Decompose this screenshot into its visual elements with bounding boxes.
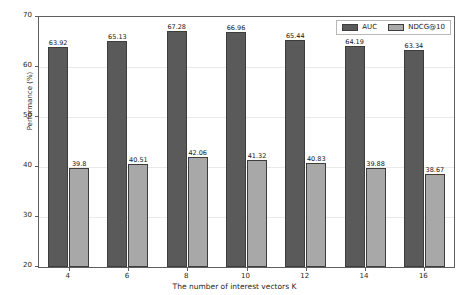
x-tick-mark — [306, 268, 307, 271]
bar-value-label: 40.83 — [307, 156, 326, 163]
bar-value-label: 42.06 — [188, 150, 207, 157]
x-tick-mark — [187, 268, 188, 271]
bar-value-label: 67.28 — [167, 24, 186, 31]
bar-auc-6[interactable]: 65.13 — [107, 41, 127, 267]
bar-value-label: 40.51 — [129, 157, 148, 164]
bar-ndcg-10-14[interactable]: 39.88 — [366, 168, 386, 267]
bar-ndcg-10-4[interactable]: 39.8 — [69, 168, 89, 267]
bar-value-label: 64.19 — [345, 39, 364, 46]
bar-auc-14[interactable]: 64.19 — [345, 46, 365, 267]
y-tick-label: 40 — [6, 162, 32, 169]
bar-auc-4[interactable]: 63.92 — [48, 47, 68, 267]
legend-label-auc: AUC — [362, 24, 377, 31]
x-tick-mark — [424, 268, 425, 271]
bar-value-label: 41.32 — [248, 153, 267, 160]
x-tick-label: 14 — [344, 272, 384, 280]
legend-entry-ndcg[interactable]: NDCG@10 — [388, 24, 445, 31]
y-tick-label: 60 — [6, 62, 32, 69]
legend-entry-auc[interactable]: AUC — [342, 24, 377, 31]
plot-area: 63.9239.865.1340.5167.2842.0666.9641.326… — [38, 16, 455, 268]
x-tick-label: 10 — [226, 272, 266, 280]
y-tick-mark — [35, 266, 38, 267]
y-tick-mark — [35, 66, 38, 67]
bar-auc-10[interactable]: 66.96 — [226, 32, 246, 267]
x-tick-label: 6 — [107, 272, 147, 280]
bar-auc-16[interactable]: 63.34 — [404, 50, 424, 267]
x-tick-label: 12 — [285, 272, 325, 280]
chart-legend: AUC NDCG@10 — [336, 20, 451, 35]
bar-ndcg-10-8[interactable]: 42.06 — [188, 157, 208, 267]
y-tick-mark — [35, 116, 38, 117]
x-tick-label: 8 — [166, 272, 206, 280]
bar-ndcg-10-12[interactable]: 40.83 — [306, 163, 326, 267]
bar-value-label: 39.8 — [72, 161, 86, 168]
bar-value-label: 63.92 — [49, 40, 68, 47]
x-tick-mark — [365, 268, 366, 271]
x-axis-label: The number of interest vectors K — [0, 282, 469, 291]
gridline — [39, 117, 454, 118]
y-tick-mark — [35, 166, 38, 167]
bar-chart-figure: Performance (%) 63.9239.865.1340.5167.28… — [0, 0, 469, 295]
bar-ndcg-10-6[interactable]: 40.51 — [128, 164, 148, 267]
y-tick-mark — [35, 16, 38, 17]
y-tick-label: 70 — [6, 12, 32, 19]
bar-value-label: 65.44 — [286, 33, 305, 40]
x-tick-mark — [128, 268, 129, 271]
bar-auc-12[interactable]: 65.44 — [285, 40, 305, 267]
bar-value-label: 65.13 — [108, 34, 127, 41]
y-tick-label: 50 — [6, 112, 32, 119]
bar-value-label: 39.88 — [366, 161, 385, 168]
y-axis-label: Performance (%) — [26, 21, 34, 181]
bar-value-label: 63.34 — [405, 43, 424, 50]
y-tick-mark — [35, 216, 38, 217]
bar-ndcg-10-10[interactable]: 41.32 — [247, 160, 267, 267]
bar-value-label: 38.67 — [426, 167, 445, 174]
gridline — [39, 67, 454, 68]
legend-label-ndcg: NDCG@10 — [408, 24, 445, 31]
bar-auc-8[interactable]: 67.28 — [167, 31, 187, 267]
x-tick-label: 4 — [48, 272, 88, 280]
bar-value-label: 66.96 — [227, 25, 246, 32]
legend-swatch-auc — [342, 24, 358, 31]
legend-swatch-ndcg — [388, 24, 404, 31]
x-tick-mark — [247, 268, 248, 271]
y-tick-label: 20 — [6, 262, 32, 269]
x-tick-label: 16 — [403, 272, 443, 280]
bar-ndcg-10-16[interactable]: 38.67 — [425, 174, 445, 267]
x-tick-mark — [69, 268, 70, 271]
y-tick-label: 30 — [6, 212, 32, 219]
